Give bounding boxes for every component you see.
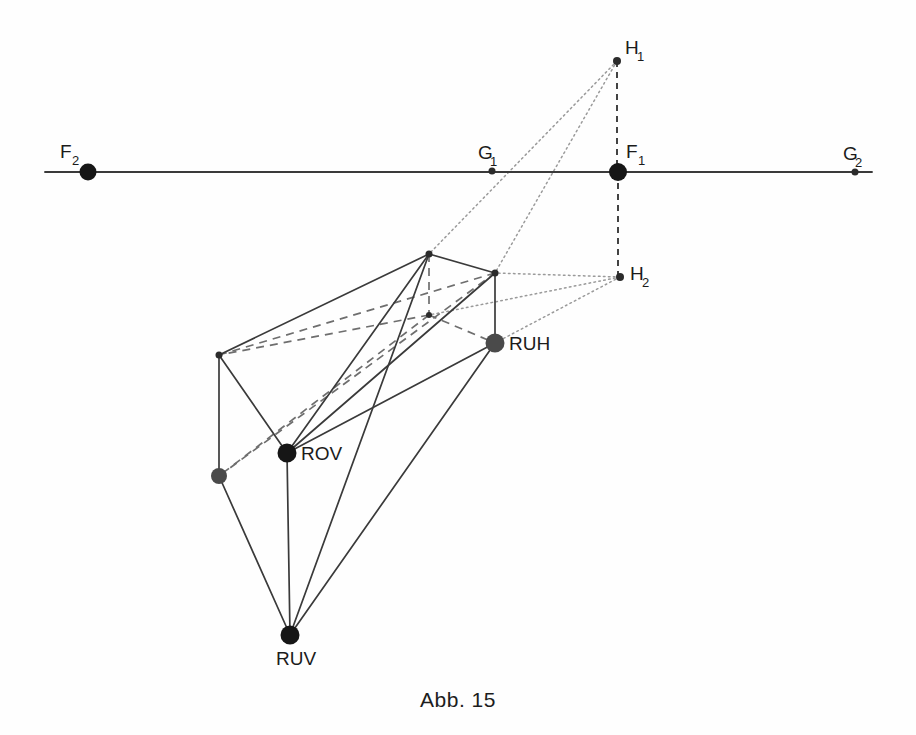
- edge-tl-rov: [219, 355, 287, 453]
- ray-h1-tr: [495, 61, 617, 273]
- point-ta: [426, 251, 433, 258]
- point-hid: [426, 312, 432, 318]
- label-group-rov: ROV: [301, 443, 343, 464]
- hidden-edge-tl-tr: [219, 273, 495, 355]
- label-group-f1: F1: [626, 141, 645, 168]
- point-rov: [278, 444, 297, 463]
- label-group-ruh: RUH: [509, 333, 550, 354]
- label-subscript-f1: 1: [638, 153, 645, 168]
- label-group-h2: H2: [630, 263, 649, 290]
- label-ruv: RUV: [276, 648, 316, 669]
- point-labels-layer: F2G1F1G2H1H2RUHROVRUV: [60, 37, 862, 669]
- label-group-f2: F2: [60, 141, 79, 168]
- point-glb: [211, 468, 227, 484]
- hidden-edge-hid-tl: [219, 315, 429, 355]
- label-ruh: RUH: [509, 333, 550, 354]
- label-f2: F: [60, 141, 72, 162]
- point-ruv: [281, 626, 300, 645]
- ray-h2-hid: [429, 277, 620, 315]
- label-rov: ROV: [301, 443, 343, 464]
- label-subscript-g1: 1: [490, 154, 497, 169]
- label-group-g1: G1: [478, 142, 497, 169]
- perspective-diagram: F2G1F1G2H1H2RUHROVRUV: [0, 0, 916, 735]
- point-tr: [492, 270, 499, 277]
- label-group-ruv: RUV: [276, 648, 316, 669]
- edge-rov-tr: [287, 273, 495, 453]
- label-subscript-h1: 1: [637, 49, 644, 64]
- point-f2: [80, 164, 97, 181]
- figure-caption: Abb. 15: [0, 688, 916, 712]
- point-h1: [613, 57, 621, 65]
- ray-h2-tr: [495, 273, 620, 277]
- label-group-h1: H1: [625, 37, 644, 64]
- figure-page: F2G1F1G2H1H2RUHROVRUV Abb. 15: [0, 0, 916, 735]
- label-subscript-g2: 2: [855, 155, 862, 170]
- edge-rov-ruv: [287, 453, 290, 635]
- edge-ta-tr: [429, 254, 495, 273]
- edge-ruv-ruh: [290, 343, 495, 635]
- ray-h1-ta: [429, 61, 617, 254]
- point-tl: [216, 352, 223, 359]
- label-f1: F: [626, 141, 638, 162]
- point-ruh: [486, 334, 505, 353]
- point-f1: [609, 163, 627, 181]
- label-group-g2: G2: [843, 143, 862, 170]
- edge-glb-ruv: [219, 476, 290, 635]
- vertex-points-layer: [80, 57, 859, 645]
- label-subscript-h2: 2: [642, 275, 649, 290]
- hidden-edge-hid-ruh: [429, 315, 495, 343]
- point-h2: [616, 273, 624, 281]
- edge-rov-ta: [287, 254, 429, 453]
- label-subscript-f2: 2: [72, 153, 79, 168]
- hidden-edge-glb-tr: [219, 273, 495, 476]
